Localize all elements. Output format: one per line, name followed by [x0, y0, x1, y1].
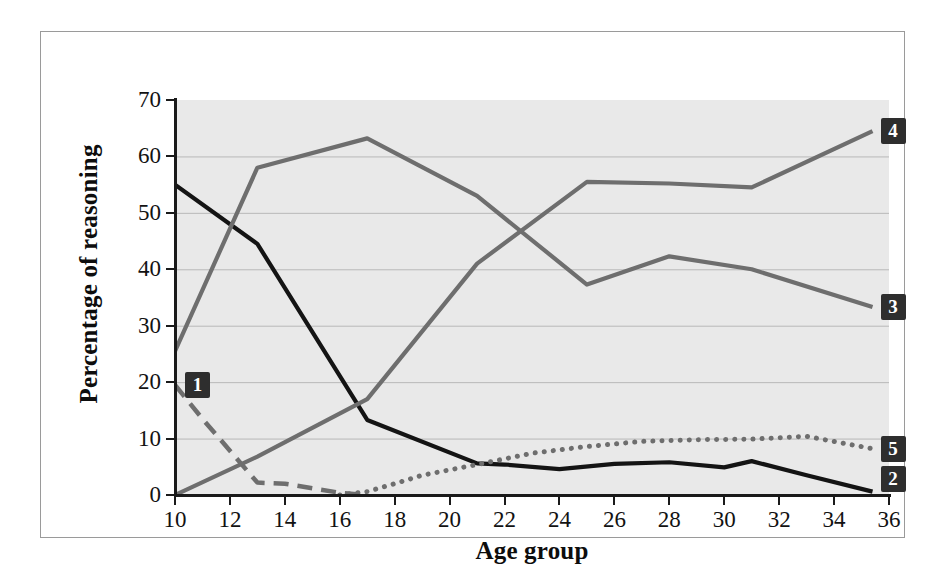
y-tick-label-wrap: 0	[119, 483, 161, 507]
x-tick-mark	[174, 496, 176, 505]
x-tick-label: 14	[257, 508, 313, 531]
x-tick-label: 28	[641, 508, 697, 531]
x-tick-label: 24	[531, 508, 587, 531]
x-tick-mark	[888, 496, 890, 505]
y-tick-label: 60	[121, 144, 161, 167]
x-tick-label: 34	[806, 508, 862, 531]
series-label-3: 3	[881, 294, 906, 320]
y-tick-label: 20	[121, 370, 161, 393]
series-layer	[175, 100, 889, 495]
x-tick-mark	[668, 496, 670, 505]
y-tick-mark	[166, 155, 175, 157]
x-tick-label: 30	[696, 508, 752, 531]
x-tick-label: 16	[312, 508, 368, 531]
y-tick-mark	[166, 438, 175, 440]
series-line-3	[175, 138, 873, 351]
x-tick-mark	[339, 496, 341, 505]
series-label-2: 2	[881, 466, 906, 492]
y-tick-label: 40	[121, 257, 161, 280]
x-axis-title: Age group	[175, 537, 889, 565]
series-line-1	[175, 385, 367, 495]
chart-figure: 706050403020100 101214161820222426283032…	[0, 0, 932, 567]
y-tick-label-wrap: 30	[119, 314, 161, 338]
x-tick-mark	[504, 496, 506, 505]
x-tick-label: 36	[861, 508, 917, 531]
x-tick-label: 26	[586, 508, 642, 531]
x-tick-mark	[394, 496, 396, 505]
x-tick-label: 18	[367, 508, 423, 531]
x-tick-mark	[833, 496, 835, 505]
series-label-1: 1	[185, 372, 210, 398]
x-tick-label: 22	[477, 508, 533, 531]
y-tick-label-wrap: 70	[119, 88, 161, 112]
y-tick-mark	[166, 381, 175, 383]
x-tick-label: 20	[422, 508, 478, 531]
figure-frame: 706050403020100 101214161820222426283032…	[40, 31, 905, 538]
y-tick-label-wrap: 50	[119, 201, 161, 225]
y-tick-label: 30	[121, 314, 161, 337]
x-tick-mark	[723, 496, 725, 505]
y-tick-label-wrap: 40	[119, 257, 161, 281]
x-tick-mark	[778, 496, 780, 505]
x-axis-line	[174, 494, 891, 497]
x-tick-label: 32	[751, 508, 807, 531]
plot-area	[175, 100, 889, 495]
series-line-4	[175, 131, 873, 495]
series-label-4: 4	[881, 118, 906, 144]
x-tick-mark	[284, 496, 286, 505]
x-tick-mark	[229, 496, 231, 505]
y-tick-label: 70	[121, 88, 161, 111]
x-tick-label: 10	[147, 508, 203, 531]
x-tick-mark	[558, 496, 560, 505]
y-tick-label: 50	[121, 201, 161, 224]
y-tick-mark	[166, 268, 175, 270]
series-label-5: 5	[881, 436, 906, 462]
y-tick-label-wrap: 20	[119, 370, 161, 394]
y-tick-mark	[166, 212, 175, 214]
x-tick-mark	[613, 496, 615, 505]
y-tick-mark	[166, 325, 175, 327]
x-tick-mark	[449, 496, 451, 505]
x-tick-label: 12	[202, 508, 258, 531]
y-axis-title: Percentage of reasoning	[75, 104, 103, 444]
y-tick-label: 0	[121, 483, 161, 506]
y-tick-label-wrap: 60	[119, 144, 161, 168]
y-tick-label: 10	[121, 427, 161, 450]
y-tick-mark	[166, 99, 175, 101]
y-tick-label-wrap: 10	[119, 427, 161, 451]
